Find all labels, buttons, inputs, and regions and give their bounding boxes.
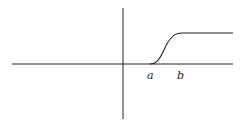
label-b: b bbox=[177, 69, 184, 82]
smooth-step-curve bbox=[150, 33, 233, 64]
label-a: a bbox=[147, 69, 154, 82]
function-diagram: a b bbox=[0, 0, 243, 127]
